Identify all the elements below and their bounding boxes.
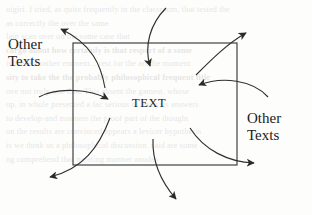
label-text-center: TEXT	[132, 95, 166, 112]
arrow-out-top-right	[196, 33, 246, 75]
label-other-texts-right: OtherTexts	[247, 110, 281, 144]
arrow-out-top-left	[61, 29, 105, 88]
arrow-in-top	[148, 8, 166, 66]
label-other-texts-left: OtherTexts	[8, 36, 42, 70]
arrow-out-bottom-left	[50, 118, 110, 177]
arrow-out-bottom	[153, 139, 176, 199]
diagram-page: uigiri. I tried, as quite frequently in …	[0, 0, 312, 215]
arrow-out-right-lower	[190, 128, 254, 163]
arrow-in-right-upper	[199, 80, 268, 97]
